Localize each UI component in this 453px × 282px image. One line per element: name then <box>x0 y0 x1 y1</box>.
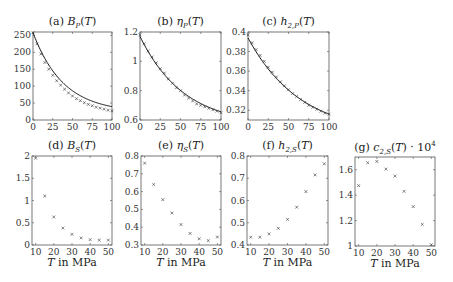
chart-title-g: (g) c2,S(T) · 104 <box>345 140 445 156</box>
y-tick-label: 50 <box>20 98 32 108</box>
data-point-marker <box>267 66 270 69</box>
data-point-marker <box>421 223 424 226</box>
data-point-marker <box>191 100 194 103</box>
data-point-marker <box>83 101 86 104</box>
data-point-marker <box>159 67 162 70</box>
data-point-marker <box>195 102 198 105</box>
data-point-marker <box>151 56 154 59</box>
data-point-marker <box>107 109 110 112</box>
plot-frame <box>140 32 221 120</box>
data-point-marker <box>203 105 206 108</box>
data-point-marker <box>258 236 261 239</box>
data-point-marker <box>103 108 106 111</box>
data-point-marker <box>357 184 360 187</box>
x-axis-label-g: T in MPa <box>345 257 445 270</box>
y-tick-label: 1.4 <box>339 190 354 200</box>
data-point-marker <box>247 34 250 37</box>
data-point-marker <box>155 61 158 64</box>
x-tick-label: 25 <box>47 122 59 132</box>
y-tick-label: 1 <box>132 56 138 66</box>
data-point-marker <box>271 71 274 74</box>
y-tick-label: 0.4 <box>125 222 140 232</box>
y-tick-label: 1.5 <box>16 173 31 183</box>
x-tick-label: 0 <box>245 122 251 132</box>
data-point-marker <box>251 41 254 44</box>
y-tick-label: 0.34 <box>226 86 246 96</box>
y-tick-label: 0.7 <box>125 169 140 179</box>
y-tick-label: 0.6 <box>125 187 140 197</box>
data-point-marker <box>207 107 210 110</box>
data-point-marker <box>275 76 278 79</box>
y-tick-label: 1 <box>347 241 353 251</box>
x-tick-label: 75 <box>195 122 207 132</box>
y-tick-label: 0.6 <box>124 115 139 125</box>
x-tick-label: 50 <box>283 122 295 132</box>
data-point-marker <box>187 97 190 100</box>
data-point-marker <box>263 60 266 63</box>
data-point-marker <box>147 50 150 53</box>
y-tick-label: 0.4 <box>231 240 246 250</box>
y-tick-label: 0.5 <box>231 218 246 228</box>
data-point-marker <box>314 174 317 177</box>
data-point-marker <box>43 61 46 64</box>
data-point-marker <box>107 239 110 242</box>
y-tick-label: 0.7 <box>231 173 246 183</box>
data-point-marker <box>175 86 178 89</box>
data-point-marker <box>323 162 326 165</box>
y-tick-label: 250 <box>14 30 31 40</box>
data-point-marker <box>47 68 50 71</box>
data-point-marker <box>216 110 219 113</box>
x-tick-label: 75 <box>303 122 315 132</box>
data-point-marker <box>291 92 294 95</box>
data-point-marker <box>161 198 164 201</box>
data-point-marker <box>171 82 174 85</box>
data-point-marker <box>287 88 290 91</box>
chart-title-c: (c) h2,P(T) <box>238 15 339 30</box>
data-point-marker <box>43 195 46 198</box>
data-point-marker <box>268 232 271 235</box>
data-point-marker <box>34 157 37 160</box>
chart-title-f: (f) h2,S(T) <box>237 139 338 154</box>
data-point-marker <box>305 190 308 193</box>
data-point-marker <box>366 161 369 164</box>
data-point-marker <box>286 218 289 221</box>
y-tick-label: 0.6 <box>231 196 246 206</box>
data-point-marker <box>299 98 302 101</box>
data-point-marker <box>32 31 35 34</box>
data-point-marker <box>71 233 74 236</box>
y-tick-label: 0.38 <box>226 47 246 57</box>
data-point-marker <box>324 112 327 115</box>
data-point-marker <box>189 232 192 235</box>
y-tick-label: 0 <box>24 240 30 250</box>
y-tick-label: 1.6 <box>339 165 354 175</box>
data-point-marker <box>403 190 406 193</box>
data-point-marker <box>328 113 331 116</box>
plot-frame <box>33 32 112 120</box>
x-tick-label: 0 <box>137 122 143 132</box>
data-point-marker <box>67 92 70 95</box>
plot-frame <box>141 156 221 245</box>
data-point-marker <box>180 223 183 226</box>
y-tick-label: 0.3 <box>125 240 140 250</box>
x-axis-label-d: T in MPa <box>22 256 122 269</box>
plot-frame <box>32 156 112 245</box>
x-tick-label: 0 <box>30 122 36 132</box>
data-point-marker <box>63 88 66 91</box>
data-point-marker <box>277 227 280 230</box>
data-point-marker <box>412 205 415 208</box>
fit-curve <box>140 36 221 111</box>
data-point-marker <box>375 160 378 163</box>
data-point-marker <box>283 84 286 87</box>
chart-title-e: (e) ηS(T) <box>131 139 231 154</box>
data-point-marker <box>79 99 82 102</box>
chart-title-d: (d) BS(T) <box>22 139 122 154</box>
x-axis-label-e: T in MPa <box>131 256 231 269</box>
data-point-marker <box>80 236 83 239</box>
y-tick-label: 200 <box>14 47 31 57</box>
chart-title-a: (a) BP(T) <box>23 15 122 30</box>
data-point-marker <box>249 236 252 239</box>
data-point-marker <box>89 238 92 241</box>
plot-frame <box>248 32 329 120</box>
y-tick-label: 1 <box>24 196 30 206</box>
data-point-marker <box>55 79 58 82</box>
